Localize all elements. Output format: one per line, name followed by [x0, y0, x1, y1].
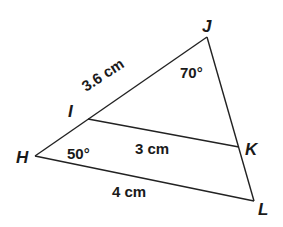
length-label-IJ: 3.6 cm — [78, 55, 126, 95]
vertex-label-K: K — [245, 140, 259, 159]
vertex-label-J: J — [202, 17, 212, 36]
side-HJ — [35, 37, 207, 156]
triangle-diagram: J I H K L 3.6 cm 3 cm 4 cm 70° 50° — [0, 0, 283, 227]
side-JL — [207, 37, 254, 201]
length-label-HL: 4 cm — [112, 183, 146, 200]
length-label-IK: 3 cm — [135, 140, 169, 157]
vertex-label-I: I — [68, 102, 74, 121]
angle-label-H: 50° — [67, 145, 90, 162]
vertex-label-H: H — [16, 148, 29, 167]
angle-label-J: 70° — [180, 64, 203, 81]
vertex-label-L: L — [258, 200, 268, 219]
